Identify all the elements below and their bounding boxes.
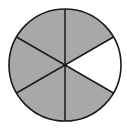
fraction-circle-diagram (0, 0, 127, 133)
